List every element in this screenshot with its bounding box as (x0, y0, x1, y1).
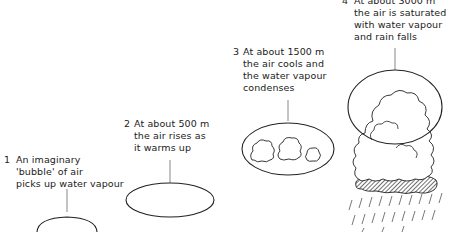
stage-3-number: 3 (233, 46, 239, 58)
stage-3-graphic (242, 100, 334, 175)
stage-1-number: 1 (4, 154, 10, 166)
small-cloud-icon (251, 140, 275, 162)
stage-4-label: At about 3000 m the air is saturated wit… (354, 0, 446, 43)
stage-4-number: 4 (342, 0, 348, 7)
stage-3-label: At about 1500 m the air cools and the wa… (243, 46, 327, 94)
stage-2-graphic (126, 160, 214, 217)
stage-1-bubble (37, 217, 97, 232)
stage-2-number: 2 (124, 118, 130, 130)
rain-icon (349, 193, 442, 232)
small-cloud-icon (278, 138, 301, 161)
small-cloud-icon (306, 148, 321, 162)
stage-1-graphic (37, 189, 97, 232)
stage-1-label: An imaginary 'bubble' of air picks up wa… (16, 154, 124, 190)
stage-4-graphic (348, 48, 442, 232)
stage-2-label: At about 500 m the air rises as it warms… (134, 118, 209, 154)
stage-2-bubble (126, 183, 214, 217)
